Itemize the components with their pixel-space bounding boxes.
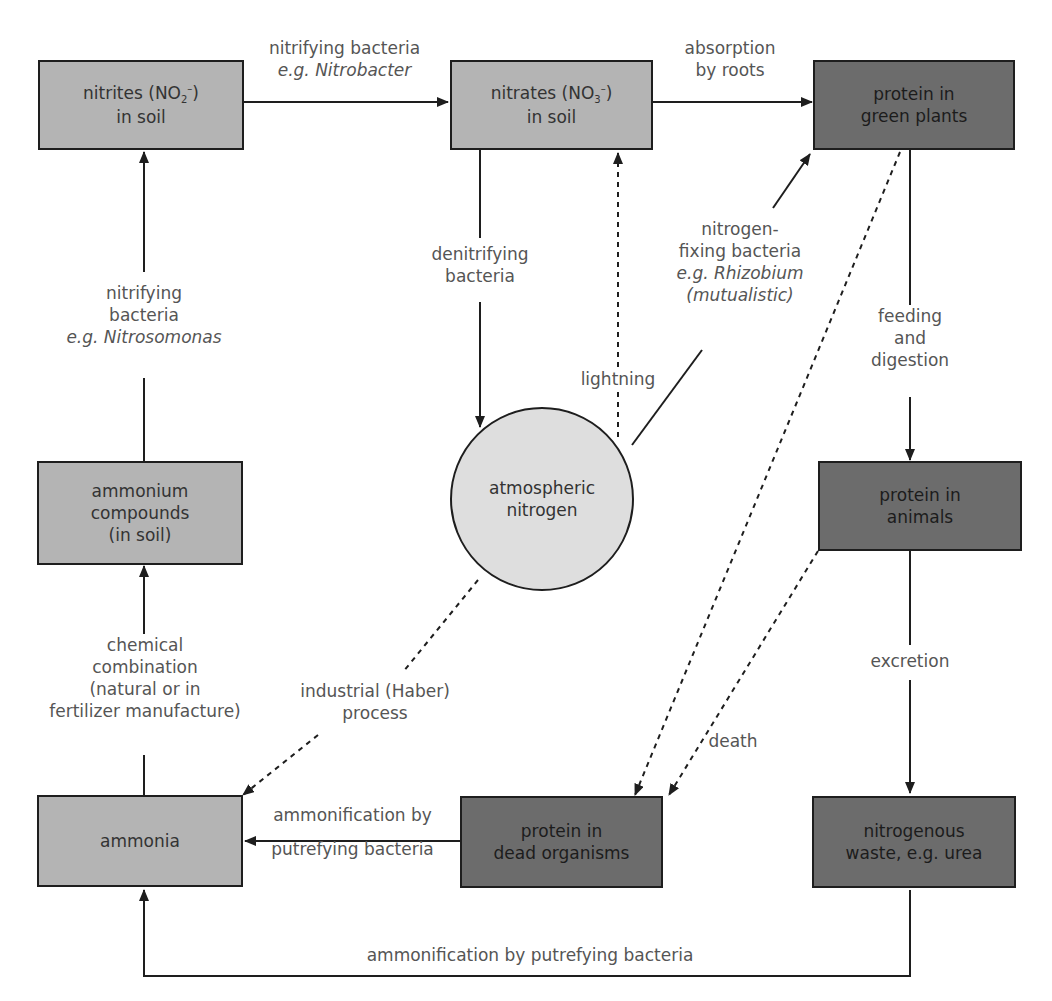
label-nitrosomonas: nitrifying bacteria e.g. Nitrosomonas (44, 282, 244, 348)
label-absorption: absorption by roots (660, 37, 800, 81)
ammonia-line1: ammonia (100, 830, 180, 852)
nitrites-line2: in soil (83, 106, 199, 128)
label-haber: industrial (Haber) process (290, 680, 460, 724)
edge-fixing-lower (632, 350, 702, 445)
edge-haber-upper (403, 580, 478, 672)
protein-plants-line1: protein in (861, 83, 968, 105)
node-atmospheric-nitrogen: atmospheric nitrogen (450, 407, 634, 591)
node-nitrites: nitrites (NO2–) in soil (38, 60, 244, 150)
waste-line2: waste, e.g. urea (846, 842, 983, 864)
protein-dead-line1: protein in (494, 820, 630, 842)
node-protein-plants: protein in green plants (813, 60, 1015, 150)
node-protein-dead: protein in dead organisms (460, 796, 663, 888)
ammonium-line3: (in soil) (91, 524, 190, 546)
atmospheric-line1: atmospheric (489, 477, 595, 499)
edge-fixing-upper (773, 154, 810, 208)
node-ammonia: ammonia (37, 795, 243, 887)
label-denitrifying: denitrifying bacteria (410, 243, 550, 287)
protein-animals-line2: animals (879, 506, 960, 528)
label-ammonification-waste: ammonification by putrefying bacteria (330, 944, 730, 966)
ammonium-line2: compounds (91, 502, 190, 524)
waste-line1: nitrogenous (846, 820, 983, 842)
nitrates-line2: in soil (491, 106, 613, 128)
protein-dead-line2: dead organisms (494, 842, 630, 864)
node-nitrogenous-waste: nitrogenous waste, e.g. urea (812, 796, 1016, 888)
edge-animals-to-dead (669, 551, 818, 795)
label-ammonification-dead: ammonification by putrefying bacteria (250, 804, 455, 860)
protein-animals-line1: protein in (879, 484, 960, 506)
label-feeding: feeding and digestion (860, 305, 960, 371)
node-protein-animals: protein in animals (818, 461, 1022, 551)
label-lightning: lightning (568, 368, 668, 390)
label-death: death (698, 730, 768, 752)
label-chemical: chemical combination (natural or in fert… (30, 634, 260, 722)
node-ammonium: ammonium compounds (in soil) (37, 461, 243, 565)
ammonium-line1: ammonium (91, 480, 190, 502)
nitrates-line1: nitrates (NO3–) (491, 83, 613, 103)
edge-haber-lower (243, 735, 318, 795)
nitrites-line1: nitrites (NO2–) (83, 83, 199, 103)
label-excretion: excretion (855, 650, 965, 672)
label-nitrobacter: nitrifying bacteria e.g. Nitrobacter (252, 37, 437, 81)
atmospheric-line2: nitrogen (489, 499, 595, 521)
label-fixing: nitrogen- fixing bacteria e.g. Rhizobium… (665, 218, 815, 306)
node-nitrates: nitrates (NO3–) in soil (450, 60, 653, 150)
protein-plants-line2: green plants (861, 105, 968, 127)
